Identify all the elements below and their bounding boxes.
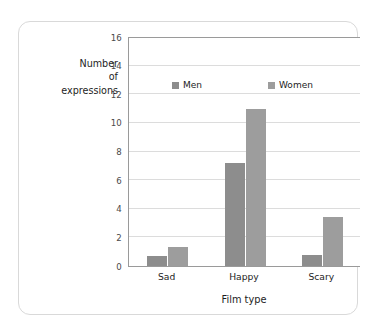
plot-area — [128, 38, 360, 267]
x-axis-tick-labels: SadHappyScary — [128, 271, 360, 287]
y-axis-tick-label: 16 — [98, 33, 122, 43]
gridline — [129, 151, 360, 152]
gridline — [129, 65, 360, 66]
gridline — [129, 179, 360, 180]
chart-legend: MenWomen — [128, 80, 360, 93]
y-axis-tick-label: 8 — [98, 147, 122, 157]
bar-scary-men — [302, 255, 322, 266]
legend-item-women[interactable]: Women — [268, 80, 313, 90]
x-axis-tick-label: Scary — [282, 271, 360, 282]
legend-swatch-icon — [268, 82, 275, 89]
y-axis-tick-label: 12 — [98, 90, 122, 100]
y-axis-tick-label: 10 — [98, 118, 122, 128]
x-axis-tick-label: Happy — [205, 271, 283, 282]
legend-label: Men — [183, 80, 202, 90]
gridline — [129, 122, 360, 123]
legend-item-men[interactable]: Men — [172, 80, 202, 90]
bar-scary-women — [323, 217, 343, 266]
y-axis-tick-label: 6 — [98, 176, 122, 186]
y-axis-tick-label: 2 — [98, 233, 122, 243]
gridline — [129, 208, 360, 209]
gridline — [129, 93, 360, 94]
x-axis-tick-label: Sad — [128, 271, 206, 282]
bar-happy-men — [225, 163, 245, 266]
bar-sad-men — [147, 256, 167, 266]
y-axis-tick-label: 14 — [98, 61, 122, 71]
x-axis-title: Film type — [128, 294, 360, 305]
y-axis-tick-label: 0 — [98, 262, 122, 272]
bar-sad-women — [168, 247, 188, 266]
legend-label: Women — [279, 80, 313, 90]
bar-happy-women — [246, 109, 266, 266]
legend-swatch-icon — [172, 82, 179, 89]
y-axis-tick-label: 4 — [98, 204, 122, 214]
bar-chart-figure: Number of expressions 0246810121416 MenW… — [0, 0, 377, 336]
